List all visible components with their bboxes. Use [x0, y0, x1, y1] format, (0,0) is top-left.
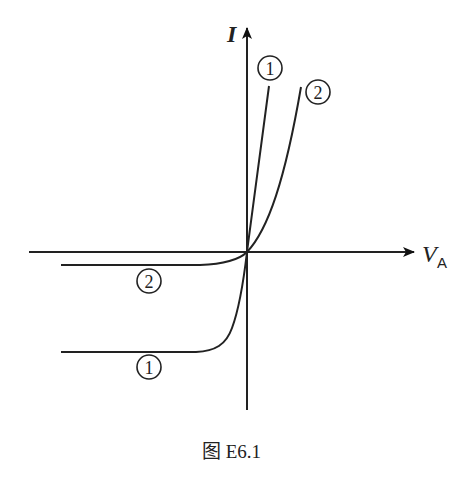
svg-text:1: 1 [145, 358, 154, 378]
curve-1-label-top: 1 [258, 56, 282, 80]
svg-text:1: 1 [266, 59, 275, 79]
svg-text:2: 2 [145, 272, 154, 292]
curve-2-label-top: 2 [306, 80, 330, 104]
iv-diagram: 1 2 2 1 I V A [0, 0, 463, 481]
curve-2-label-bottom: 2 [137, 269, 161, 293]
x-axis-label-subscript: A [437, 254, 447, 271]
curve-1 [61, 86, 269, 352]
svg-text:2: 2 [314, 83, 323, 103]
curve-1-label-bottom: 1 [137, 355, 161, 379]
figure-caption: 图 E6.1 [0, 436, 463, 463]
y-axis-label: I [226, 21, 238, 47]
